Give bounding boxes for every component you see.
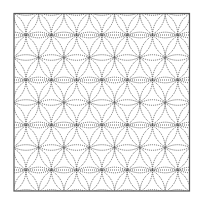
lattice-circle [0, 167, 13, 202]
lattice-circle [0, 77, 39, 128]
lattice-circle [0, 190, 1, 202]
pattern-diagram [0, 0, 202, 202]
lattice-circle [0, 10, 1, 61]
lattice-circle [0, 55, 1, 106]
lattice-circle [0, 100, 1, 151]
lattice-circle [190, 77, 202, 128]
lattice-circle [190, 32, 202, 83]
circle-pattern [0, 0, 202, 202]
lattice-circle [190, 122, 202, 173]
lattice-circle [165, 167, 202, 202]
lattice-circle [0, 32, 13, 83]
lattice-circle [115, 167, 166, 202]
lattice-circle [0, 77, 13, 128]
lattice-circle [0, 0, 39, 38]
square-frame [14, 14, 190, 192]
lattice-circle [0, 32, 39, 83]
lattice-circle [89, 167, 140, 202]
lattice-circle [0, 0, 13, 38]
lattice-circle [140, 167, 191, 202]
lattice-circle [0, 145, 1, 196]
lattice-circle [39, 167, 90, 202]
lattice-circle [0, 167, 39, 202]
lattice-circle [190, 167, 202, 202]
lattice-circle [0, 122, 39, 173]
lattice-circle [13, 167, 64, 202]
lattice-circle [0, 122, 13, 173]
lattice-circle [190, 0, 202, 38]
lattice-circle [64, 167, 115, 202]
lattice-circle [0, 0, 1, 15]
